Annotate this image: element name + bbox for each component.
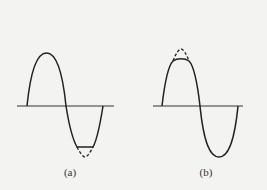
waveform-canvas bbox=[0, 0, 267, 190]
panel-b-caption: (b) bbox=[200, 166, 213, 178]
panel-a-positive-half bbox=[27, 53, 66, 106]
panel-a-caption: (a) bbox=[64, 166, 76, 178]
panel-b-positive-half-clipped bbox=[162, 59, 200, 106]
clipped-sine-wave-figure: (a) (b) bbox=[0, 0, 267, 190]
panel-b-waveform bbox=[153, 49, 243, 157]
panel-b-negative-half bbox=[200, 106, 238, 157]
panel-a-clipped-trough-dashed bbox=[77, 147, 93, 157]
panel-a-negative-half-clipped bbox=[66, 106, 103, 147]
panel-a-waveform bbox=[17, 53, 114, 157]
